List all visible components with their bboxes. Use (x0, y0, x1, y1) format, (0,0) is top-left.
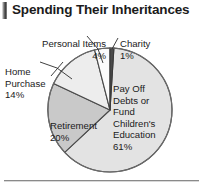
slice-label-charity-value: 1% (120, 50, 134, 61)
slice-label-payoff-line1: Pay Off (113, 83, 145, 94)
slice-label-payoff-debts: Pay Off Debts or Fund Children's Educati… (113, 83, 171, 152)
page-title: Spending Their Inheritances (12, 2, 189, 17)
slice-label-payoff-value: 61% (113, 141, 132, 152)
slice-label-retirement: Retirement 20% (50, 120, 110, 143)
slice-label-personal-items-value: 4% (92, 50, 106, 61)
pie-chart: Personal Items 4% Charity 1% Home Purcha… (0, 18, 203, 178)
title-accent-bar (2, 2, 7, 19)
slice-label-charity-text: Charity (120, 38, 150, 49)
slice-label-home-line2: Purchase (5, 78, 46, 89)
slice-label-home-line1: Home (5, 66, 31, 77)
slice-label-personal-items: Personal Items 4% (14, 38, 106, 61)
slice-label-payoff-line2: Debts or (113, 95, 149, 106)
slice-label-retirement-text: Retirement (50, 120, 97, 131)
leader-line-charity (112, 38, 118, 49)
slice-label-payoff-line5: Education (113, 129, 156, 140)
chart-figure: Spending Their Inheritances (0, 0, 203, 188)
slice-label-home-purchase: Home Purchase 14% (5, 66, 67, 101)
bottom-divider (4, 180, 199, 182)
slice-label-personal-items-text: Personal Items (42, 38, 106, 49)
slice-label-retirement-value: 20% (50, 132, 69, 143)
slice-label-home-value: 14% (5, 89, 24, 100)
slice-label-payoff-line4: Children's (113, 118, 155, 129)
slice-label-charity: Charity 1% (120, 38, 150, 61)
slice-label-payoff-line3: Fund (113, 106, 135, 117)
